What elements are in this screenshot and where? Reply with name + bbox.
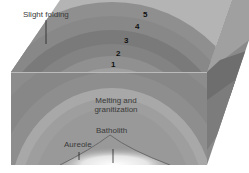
label-aureole: Aureole (64, 140, 92, 149)
label-melting-line1: Melting and (86, 96, 146, 105)
label-batholith: Batholith (96, 126, 127, 135)
layer-number-2: 2 (116, 50, 120, 58)
label-slight-folding: Slight folding (23, 10, 69, 19)
label-melting-line2: granitization (86, 105, 146, 114)
layer-number-1: 1 (111, 61, 115, 69)
geology-block-diagram: Slight folding 5 4 3 2 1 Melting and gra… (0, 0, 249, 173)
label-melting-granitization: Melting and granitization (86, 96, 146, 114)
block-diagram-graphic (0, 0, 249, 173)
layer-number-5: 5 (143, 11, 147, 19)
layer-number-3: 3 (124, 37, 128, 45)
layer-number-4: 4 (135, 23, 139, 31)
